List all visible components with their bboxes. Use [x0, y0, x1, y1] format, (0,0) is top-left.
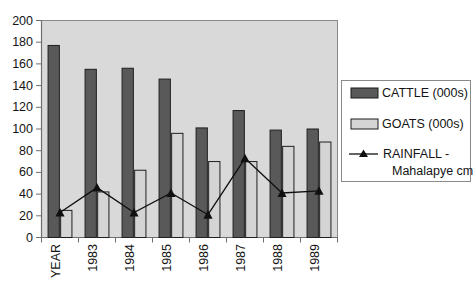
bar-goats — [135, 170, 146, 237]
x-tick-label: 1984 — [123, 244, 137, 272]
bar-goats — [320, 142, 331, 237]
legend-label-goats: GOATS (000s) — [382, 117, 464, 131]
legend-label-rainfall-line2: Mahalapye cm — [392, 164, 473, 178]
y-axis-ticks — [36, 21, 42, 238]
y-tick-label: 40 — [19, 187, 33, 201]
y-tick-label: 60 — [19, 165, 33, 179]
legend-item-cattle[interactable]: CATTLE (000s) — [351, 86, 468, 100]
bar-goats — [172, 133, 183, 237]
chart-legend: CATTLE (000s) GOATS (000s) RAINFALL - Ma… — [342, 81, 474, 182]
y-tick-label: 80 — [19, 144, 33, 158]
x-tick-label: 1983 — [86, 244, 100, 272]
y-tick-label: 180 — [12, 35, 33, 49]
bar-cattle — [196, 128, 207, 238]
bar-cattle — [122, 68, 133, 237]
bar-line-chart: 0 20 40 60 80 100 120 140 160 180 200 YE… — [0, 0, 474, 302]
bar-cattle — [159, 79, 170, 237]
y-axis-tick-labels: 0 20 40 60 80 100 120 140 160 180 200 — [12, 14, 33, 245]
y-tick-label: 20 — [19, 209, 33, 223]
legend-label-cattle: CATTLE (000s) — [382, 86, 468, 100]
x-axis-tick-labels: YEAR1983198419851986198719881989 — [49, 244, 322, 278]
bar-goats — [98, 192, 109, 238]
legend-label-rainfall-line1: RAINFALL - — [383, 147, 449, 161]
y-tick-label: 120 — [12, 100, 33, 114]
x-tick-label: YEAR — [49, 244, 63, 278]
y-tick-label: 200 — [12, 14, 33, 28]
bar-goats — [246, 162, 257, 238]
y-tick-label: 100 — [12, 122, 33, 136]
x-tick-label: 1988 — [271, 244, 285, 272]
x-tick-label: 1986 — [197, 244, 211, 272]
chart-container: 0 20 40 60 80 100 120 140 160 180 200 YE… — [0, 0, 474, 302]
bar-cattle — [85, 69, 96, 237]
x-tick-label: 1985 — [160, 244, 174, 272]
x-axis-ticks — [42, 238, 338, 243]
legend-swatch-cattle-icon — [351, 88, 378, 98]
y-tick-label: 160 — [12, 57, 33, 71]
legend-item-goats[interactable]: GOATS (000s) — [351, 117, 464, 131]
y-tick-label: 140 — [12, 79, 33, 93]
legend-swatch-goats-icon — [351, 119, 378, 129]
bar-cattle — [48, 45, 59, 237]
x-tick-label: 1987 — [234, 244, 248, 272]
y-tick-label: 0 — [26, 231, 33, 245]
x-tick-label: 1989 — [308, 244, 322, 272]
bar-cattle — [307, 129, 318, 238]
